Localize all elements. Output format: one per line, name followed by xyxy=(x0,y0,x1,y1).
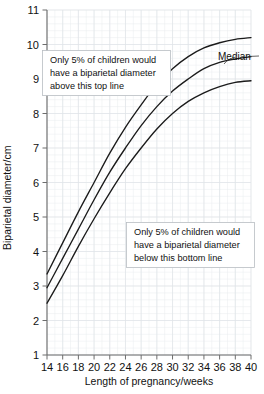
x-tick-label: 26 xyxy=(135,361,147,373)
top-callout-line-2: have a biparietal diameter xyxy=(50,68,156,78)
y-axis-title: Biparietal diameter/cm xyxy=(1,145,13,250)
y-tick-label: 1 xyxy=(33,349,39,361)
y-tick-label: 7 xyxy=(33,142,39,154)
y-tick-label: 11 xyxy=(28,4,39,16)
x-tick-label: 34 xyxy=(198,361,210,373)
x-axis-title: Length of pregnancy/weeks xyxy=(85,375,213,387)
y-tick-label: 9 xyxy=(33,73,39,85)
top-callout: Only 5% of children would have a biparie… xyxy=(43,51,171,96)
bottom-callout-line-1: Only 5% of children would xyxy=(134,227,240,237)
x-tick-label: 20 xyxy=(88,361,100,373)
y-tick-label: 4 xyxy=(33,246,39,258)
x-tick-label: 18 xyxy=(72,361,84,373)
x-tick-label: 40 xyxy=(245,361,257,373)
y-tick-label: 6 xyxy=(33,177,39,189)
x-tick-label: 24 xyxy=(119,361,131,373)
top-callout-line-1: Only 5% of children would xyxy=(50,55,156,65)
y-tick-label: 10 xyxy=(27,39,39,51)
bottom-callout-line-2: have a biparietal diameter xyxy=(134,240,240,250)
x-tick-label: 16 xyxy=(57,361,69,373)
bottom-callout: Only 5% of children would have a biparie… xyxy=(127,223,255,268)
x-tick-label: 14 xyxy=(41,361,53,373)
y-tick-label: 2 xyxy=(33,315,39,327)
top-callout-line-3: above this top line xyxy=(50,81,124,91)
x-tick-label: 36 xyxy=(213,361,225,373)
y-tick-label: 8 xyxy=(33,108,39,120)
x-tick-label: 28 xyxy=(151,361,163,373)
x-tick-label: 38 xyxy=(229,361,241,373)
x-tick-label: 22 xyxy=(104,361,116,373)
y-tick-label: 5 xyxy=(33,211,39,223)
x-tick-label: 30 xyxy=(166,361,178,373)
x-tick-label: 32 xyxy=(182,361,194,373)
bottom-callout-line-3: below this bottom line xyxy=(134,253,222,263)
median-label: Median xyxy=(218,51,251,62)
biparietal-diameter-growth-chart: 1234567891011 14161820222426283032343638… xyxy=(0,0,264,394)
chart-container: 1234567891011 14161820222426283032343638… xyxy=(0,0,264,394)
y-tick-label: 3 xyxy=(33,280,39,292)
